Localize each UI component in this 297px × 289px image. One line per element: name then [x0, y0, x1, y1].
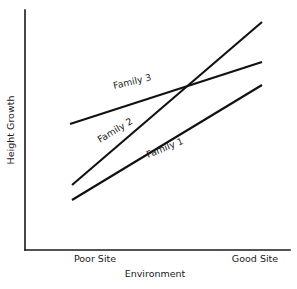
x-tick-label-poor-site: Poor Site — [74, 253, 116, 264]
y-axis-title: Height Growth — [5, 96, 16, 165]
series-label-family-2: Family 2 — [95, 115, 134, 144]
series-line-family-2 — [72, 22, 262, 185]
chart-canvas: Family 3 Family 2 Family 1 Poor Site Goo… — [0, 0, 297, 289]
reaction-norm-chart: Family 3 Family 2 Family 1 Poor Site Goo… — [0, 0, 297, 289]
x-axis-title: Environment — [125, 268, 186, 279]
series-line-family-3 — [70, 62, 262, 124]
series-label-family-1: Family 1 — [145, 135, 185, 160]
series-label-family-3: Family 3 — [112, 71, 152, 90]
x-tick-label-good-site: Good Site — [232, 253, 278, 264]
